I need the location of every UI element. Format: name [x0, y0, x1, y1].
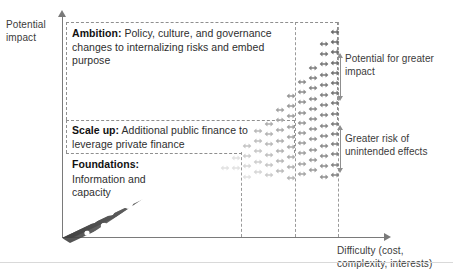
x-axis-line	[62, 237, 385, 238]
cluster-arrow-icon	[298, 170, 307, 177]
cluster-arrow-icon	[320, 132, 329, 139]
cluster-arrow-icon	[276, 168, 285, 175]
y-axis-line	[62, 16, 63, 238]
x-axis-arrowhead-icon	[384, 233, 391, 241]
cluster-arrow-icon	[265, 172, 274, 179]
tier-title-scale-up: Scale up:	[72, 124, 119, 136]
gridline-difficulty-1	[241, 152, 242, 237]
bottom-rule-divider	[0, 262, 453, 263]
cluster-arrow-icon	[320, 153, 329, 160]
cluster-arrow-icon	[265, 161, 274, 168]
annotation-arrow-potential-impact	[340, 58, 341, 96]
tier-title-foundations: Foundations:	[72, 158, 182, 172]
cluster-arrow-icon	[254, 168, 263, 175]
cluster-arrow-icon	[320, 143, 329, 150]
cluster-arrow-icon	[232, 165, 241, 172]
cluster-arrow-icon	[298, 130, 307, 137]
cluster-arrow-icon	[320, 163, 329, 170]
cluster-arrow-icon	[221, 165, 230, 172]
y-axis-label: Potential impact	[6, 19, 60, 44]
figure-root: Potential impact Difficulty (cost, compl…	[0, 0, 453, 276]
cluster-arrow-icon	[298, 140, 307, 147]
tier-box-foundations	[66, 153, 242, 154]
tier-label-scale-up: Scale up: Additional public finance to l…	[72, 124, 287, 151]
cluster-arrow-icon	[309, 167, 318, 174]
tier-title-ambition: Ambition:	[72, 27, 121, 39]
cluster-arrow-icon	[309, 126, 318, 133]
tier-label-foundations: Foundations:Information and capacity	[72, 158, 182, 200]
annotation-arrow-unintended-effects	[340, 130, 341, 168]
cluster-arrow-icon	[232, 155, 241, 162]
tier-body-foundations: Information and capacity	[72, 173, 146, 199]
cluster-arrow-icon	[320, 122, 329, 129]
cluster-arrow-icon	[309, 136, 318, 143]
cluster-arrow-icon	[243, 173, 252, 180]
x-axis-label: Difficulty (cost, complexity, interests)	[337, 245, 453, 270]
annotation-unintended-effects: Greater risk of unintended effects	[345, 133, 445, 158]
cluster-arrow-icon	[298, 119, 307, 126]
cluster-arrow-icon	[243, 163, 252, 170]
cluster-arrow-icon	[276, 158, 285, 165]
annotation-potential-impact: Potential for greater impact	[345, 53, 445, 78]
cluster-arrow-icon	[320, 173, 329, 180]
cluster-arrow-icon	[298, 150, 307, 157]
cluster-arrow-icon	[298, 160, 307, 167]
y-axis-arrowhead-icon	[58, 10, 66, 17]
cluster-arrow-icon	[309, 146, 318, 153]
tier-label-ambition: Ambition: Policy, culture, and governanc…	[72, 27, 304, 68]
cluster-arrow-icon	[254, 158, 263, 165]
cluster-arrow-icon	[243, 153, 252, 160]
cluster-arrow-icon	[309, 156, 318, 163]
